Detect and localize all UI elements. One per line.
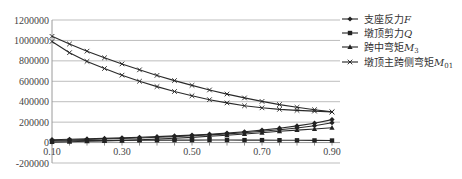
x-tick-label: 0.70 bbox=[253, 146, 271, 157]
line-chart: 120000010000008000006000004000002000000-… bbox=[0, 0, 462, 179]
legend-label: 墩顶剪力Q bbox=[364, 27, 412, 39]
legend-item: 跨中弯矩M3 bbox=[342, 41, 419, 55]
legend-item: 墩顶剪力Q bbox=[342, 27, 412, 39]
y-tick-label: -200000 bbox=[16, 158, 49, 169]
x-axis-ticks: 0.100.300.500.700.90 bbox=[43, 143, 341, 157]
legend-label: 墩顶主跨侧弯矩M01 bbox=[364, 56, 453, 70]
data-series bbox=[49, 34, 334, 144]
y-tick-label: 1000000 bbox=[14, 35, 49, 46]
x-tick-label: 0.30 bbox=[113, 146, 131, 157]
x-tick-label: 0.10 bbox=[43, 146, 61, 157]
legend-label: 跨中弯矩M3 bbox=[364, 41, 419, 55]
y-tick-label: 200000 bbox=[19, 117, 49, 128]
legend-item: 墩顶主跨侧弯矩M01 bbox=[342, 56, 453, 70]
series-line bbox=[50, 39, 335, 114]
y-tick-label: 400000 bbox=[19, 96, 49, 107]
y-tick-label: 1200000 bbox=[14, 15, 49, 26]
x-tick-label: 0.50 bbox=[183, 146, 201, 157]
legend: 支座反力F墩顶剪力Q跨中弯矩M3墩顶主跨侧弯矩M01 bbox=[342, 13, 453, 70]
x-tick-label: 0.90 bbox=[323, 146, 341, 157]
legend-item: 支座反力F bbox=[342, 13, 412, 25]
y-tick-label: 800000 bbox=[19, 55, 49, 66]
legend-label: 支座反力F bbox=[364, 13, 412, 25]
y-tick-label: 600000 bbox=[19, 76, 49, 87]
